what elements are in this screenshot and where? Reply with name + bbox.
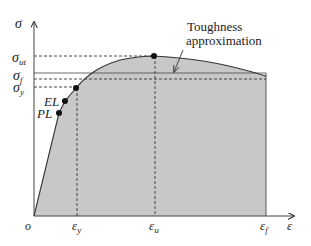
sigma-ut-label: σut: [12, 50, 26, 67]
pl-label: PL: [36, 106, 52, 121]
eps-f-label: εf: [260, 218, 269, 235]
annotation-line2: approximation: [186, 33, 262, 48]
eps-u-label: εu: [149, 218, 159, 235]
point-ultimate: [151, 53, 157, 59]
point-pl: [56, 110, 62, 116]
point-el: [62, 98, 68, 104]
toughness-area: [34, 56, 266, 216]
stress-strain-diagram: σ ε o σut σf σy EL PL εy εu εf Toughness…: [0, 0, 311, 246]
x-axis-label: ε: [287, 218, 293, 233]
origin-label: o: [25, 219, 31, 233]
y-axis-label: σ: [15, 16, 23, 31]
point-yield: [73, 85, 79, 91]
annotation-line1: Toughness: [187, 19, 242, 34]
eps-y-label: εy: [72, 218, 81, 235]
